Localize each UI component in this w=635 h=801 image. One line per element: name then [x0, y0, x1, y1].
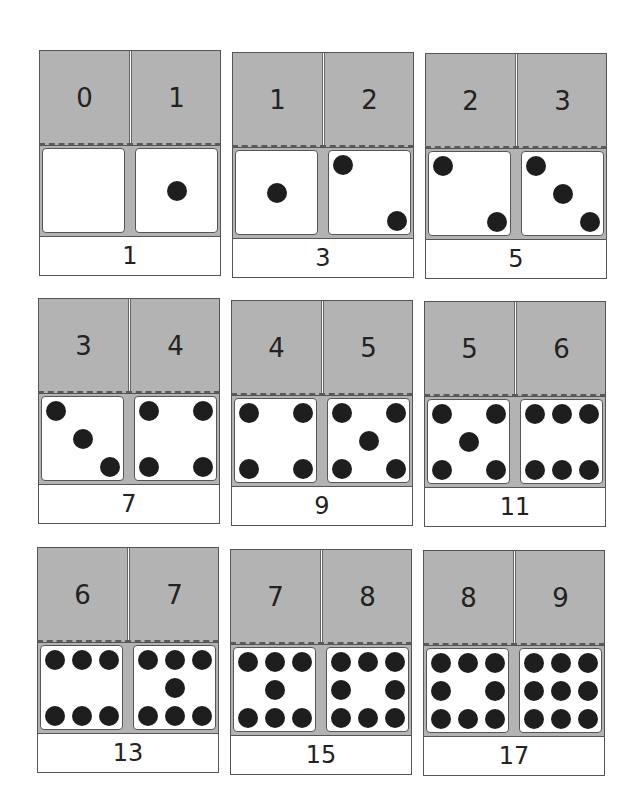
right-number: 2	[325, 53, 414, 147]
pip-dot	[358, 708, 378, 728]
pip-dot	[99, 650, 119, 670]
dice-face-right	[519, 648, 602, 733]
pip-dot	[387, 211, 407, 231]
pip-dot	[524, 653, 544, 673]
pip-dot	[167, 181, 187, 201]
dice-face-right	[327, 398, 410, 483]
pip-dot	[551, 709, 571, 729]
sum-strip: 15	[230, 735, 412, 775]
pip-dot	[578, 653, 598, 673]
pip-dot	[332, 459, 352, 479]
dice-face-left	[428, 151, 511, 236]
number-flaps: 7 8	[230, 549, 412, 645]
pip-dot	[165, 678, 185, 698]
pip-dot	[552, 460, 572, 480]
pip-dot	[239, 403, 259, 423]
pip-dot	[553, 184, 573, 204]
pip-dot	[331, 652, 351, 672]
pip-dot	[139, 401, 159, 421]
pip-dot	[165, 706, 185, 726]
dice-face-right	[135, 148, 218, 233]
domino-card-1: 1 2 3	[232, 52, 414, 278]
pip-dot	[72, 706, 92, 726]
dice-face-left	[426, 648, 509, 733]
dice-face-left	[40, 645, 123, 730]
pip-dot	[524, 681, 544, 701]
pip-dot	[385, 652, 405, 672]
pip-dot	[100, 457, 120, 477]
sum-strip: 5	[425, 239, 607, 279]
sum-strip: 3	[232, 238, 414, 278]
domino-card-0: 0 1 1	[39, 50, 221, 276]
pip-dot	[192, 650, 212, 670]
left-number: 3	[39, 299, 128, 393]
dice-band	[38, 394, 220, 484]
fold-line	[230, 642, 412, 644]
dice-band	[230, 645, 412, 735]
pip-dot	[459, 432, 479, 452]
pip-dot	[333, 155, 353, 175]
fold-line	[39, 143, 221, 145]
fold-line	[424, 394, 606, 396]
fold-line	[231, 393, 413, 395]
pip-dot	[192, 706, 212, 726]
pip-dot	[433, 156, 453, 176]
pip-dot	[265, 680, 285, 700]
pip-dot	[265, 708, 285, 728]
left-number: 7	[231, 550, 320, 644]
sum-strip: 9	[231, 486, 413, 526]
domino-card-7: 7 8 15	[230, 549, 412, 775]
dice-face-left	[41, 396, 124, 481]
pip-dot	[265, 652, 285, 672]
pip-dot	[485, 681, 505, 701]
pip-dot	[525, 404, 545, 424]
pip-dot	[293, 403, 313, 423]
right-number: 8	[323, 550, 412, 644]
pip-dot	[578, 681, 598, 701]
pip-dot	[139, 457, 159, 477]
number-flaps: 3 4	[38, 298, 220, 394]
dice-band	[423, 646, 605, 736]
sum-strip: 11	[424, 487, 606, 527]
pip-dot	[431, 653, 451, 673]
domino-card-6: 6 7 13	[37, 547, 219, 773]
pip-dot	[526, 156, 546, 176]
pip-dot	[486, 460, 506, 480]
dice-band	[39, 146, 221, 236]
pip-dot	[552, 404, 572, 424]
dice-face-right	[520, 399, 603, 484]
left-number: 0	[40, 51, 129, 145]
pip-dot	[486, 404, 506, 424]
pip-dot	[579, 404, 599, 424]
pip-dot	[238, 652, 258, 672]
fold-line	[232, 145, 414, 147]
pip-dot	[386, 459, 406, 479]
pip-dot	[193, 401, 213, 421]
right-number: 3	[518, 54, 607, 148]
pip-dot	[138, 650, 158, 670]
sum-strip: 13	[37, 733, 219, 773]
pip-dot	[99, 706, 119, 726]
pip-dot	[138, 706, 158, 726]
pip-dot	[46, 401, 66, 421]
dice-face-left	[235, 150, 318, 235]
dice-band	[37, 643, 219, 733]
dice-face-right	[328, 150, 411, 235]
left-number: 5	[425, 302, 514, 396]
pip-dot	[193, 457, 213, 477]
left-number: 6	[38, 548, 127, 642]
dice-face-left	[234, 398, 317, 483]
number-flaps: 6 7	[37, 547, 219, 643]
left-number: 4	[232, 301, 321, 395]
pip-dot	[332, 403, 352, 423]
pip-dot	[458, 709, 478, 729]
domino-card-8: 8 9 17	[423, 550, 605, 776]
dice-band	[232, 148, 414, 238]
number-flaps: 2 3	[425, 53, 607, 149]
pip-dot	[292, 708, 312, 728]
domino-card-4: 4 5 9	[231, 300, 413, 526]
sum-strip: 7	[38, 484, 220, 524]
number-flaps: 5 6	[424, 301, 606, 397]
number-flaps: 0 1	[39, 50, 221, 146]
pip-dot	[331, 708, 351, 728]
